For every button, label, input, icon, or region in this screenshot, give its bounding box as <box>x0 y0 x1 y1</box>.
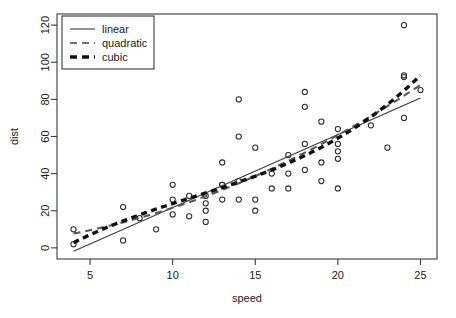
y-tick-label: 0 <box>39 245 51 251</box>
data-point <box>220 160 225 165</box>
data-point <box>187 193 192 198</box>
data-point <box>368 123 373 128</box>
data-point <box>302 104 307 109</box>
x-axis-ticks <box>90 259 420 265</box>
chart-container: 510152025 020406080100120 speed dist lin… <box>0 0 456 318</box>
data-point <box>319 119 324 124</box>
x-tick-label: 10 <box>167 269 179 281</box>
y-tick-label: 100 <box>39 53 51 71</box>
data-point <box>286 171 291 176</box>
linear-fit-line <box>74 98 421 251</box>
data-point <box>335 186 340 191</box>
quadratic-fit-line <box>74 85 421 234</box>
data-point <box>319 160 324 165</box>
data-point <box>253 208 258 213</box>
data-point <box>71 227 76 232</box>
legend-label-linear: linear <box>102 23 129 35</box>
data-point <box>335 149 340 154</box>
data-point <box>236 134 241 139</box>
data-point <box>418 88 423 93</box>
data-point <box>253 197 258 202</box>
legend-label-cubic: cubic <box>102 51 128 63</box>
data-point <box>220 197 225 202</box>
data-point <box>302 141 307 146</box>
data-point <box>335 156 340 161</box>
y-tick-label: 120 <box>39 16 51 34</box>
data-point <box>236 197 241 202</box>
data-point <box>187 214 192 219</box>
data-point <box>269 171 274 176</box>
legend-label-quadratic: quadratic <box>102 37 148 49</box>
y-axis-tick-labels: 020406080100120 <box>39 16 51 251</box>
data-point <box>286 186 291 191</box>
data-point <box>385 145 390 150</box>
x-tick-label: 5 <box>87 269 93 281</box>
x-tick-label: 20 <box>332 269 344 281</box>
scatter-plot: 510152025 020406080100120 speed dist lin… <box>0 0 456 318</box>
legend: linear quadratic cubic <box>62 16 154 69</box>
data-point <box>302 167 307 172</box>
x-axis-title: speed <box>232 292 262 304</box>
data-point <box>203 219 208 224</box>
x-tick-label: 25 <box>414 269 426 281</box>
data-point <box>203 208 208 213</box>
data-point <box>170 212 175 217</box>
data-point <box>401 23 406 28</box>
x-tick-label: 15 <box>249 269 261 281</box>
y-tick-label: 60 <box>39 130 51 142</box>
cubic-fit-line <box>74 75 421 242</box>
data-point <box>269 186 274 191</box>
y-axis-title: dist <box>8 128 20 145</box>
data-point <box>401 115 406 120</box>
data-point <box>203 201 208 206</box>
data-point <box>253 145 258 150</box>
data-point <box>335 126 340 131</box>
data-point <box>170 182 175 187</box>
y-tick-label: 40 <box>39 167 51 179</box>
data-point <box>120 204 125 209</box>
y-axis-ticks <box>51 25 57 248</box>
data-point <box>319 178 324 183</box>
data-point <box>154 227 159 232</box>
y-tick-label: 80 <box>39 93 51 105</box>
data-point <box>120 238 125 243</box>
x-axis-tick-labels: 510152025 <box>87 269 427 281</box>
y-tick-label: 20 <box>39 205 51 217</box>
data-point <box>335 141 340 146</box>
data-point <box>302 89 307 94</box>
data-point <box>236 97 241 102</box>
